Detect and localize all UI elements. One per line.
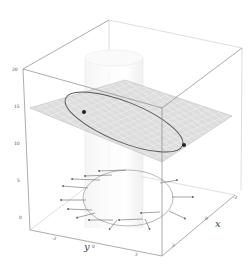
y-axis-label: y [83,241,90,252]
svg-text:10: 10 [14,141,20,146]
svg-text:2: 2 [135,252,138,257]
svg-text:-2: -2 [233,195,238,200]
svg-text:2: 2 [172,243,175,248]
x-axis: 2 0 -2 x [172,195,238,248]
y-axis: -2 0 2 y [52,236,138,257]
svg-text:15: 15 [14,104,20,109]
plot-canvas: 20 15 10 5 0 -2 0 2 y 2 0 -2 x [0,0,250,270]
svg-text:0: 0 [92,244,95,249]
svg-text:0: 0 [19,215,22,220]
x-axis-label: x [215,218,221,229]
point-marker [82,110,86,114]
svg-text:-2: -2 [52,236,57,241]
svg-text:0: 0 [205,216,208,221]
3d-plot: 20 15 10 5 0 -2 0 2 y 2 0 -2 x [0,0,250,270]
z-axis-ticks: 20 15 10 5 0 [12,67,22,220]
svg-text:20: 20 [12,67,18,72]
svg-text:5: 5 [17,178,20,183]
point-marker [182,143,186,147]
